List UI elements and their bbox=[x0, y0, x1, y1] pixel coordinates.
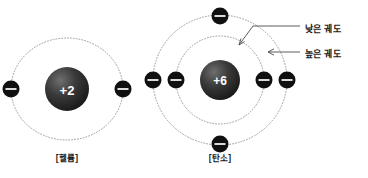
carbon-electron bbox=[212, 136, 229, 153]
carbon-caption: [탄소] bbox=[148, 151, 292, 163]
carbon-electron bbox=[279, 72, 296, 89]
carbon-electron bbox=[212, 8, 229, 25]
atom-diagram-canvas: +2 +6 bbox=[0, 0, 368, 178]
helium-nucleus-charge-label: +2 bbox=[60, 83, 75, 98]
carbon-electron bbox=[256, 72, 273, 89]
annotation-high-orbit: 높은 궤도 bbox=[305, 47, 341, 60]
carbon-nucleus-charge-label: +6 bbox=[213, 74, 227, 88]
carbon-electron bbox=[168, 72, 185, 89]
annotation-low-orbit: 낮은 궤도 bbox=[305, 22, 341, 35]
helium-caption: [헬륨] bbox=[0, 151, 134, 163]
carbon-electron bbox=[145, 72, 162, 89]
atom-carbon: +6 bbox=[145, 8, 296, 153]
helium-electron bbox=[3, 81, 20, 98]
leader-high-orbit bbox=[268, 49, 300, 55]
helium-electron bbox=[115, 81, 132, 98]
atom-helium: +2 bbox=[3, 38, 132, 140]
